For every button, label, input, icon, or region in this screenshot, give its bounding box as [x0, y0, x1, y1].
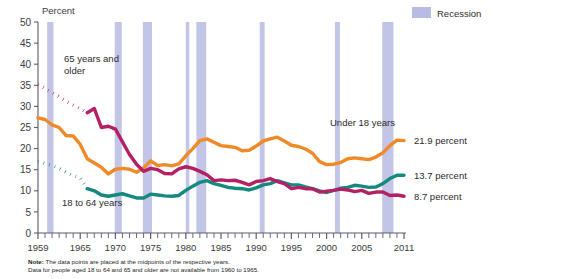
recession-band [143, 22, 152, 233]
y-tick-label: 0 [25, 228, 31, 239]
x-tick-label: 2005 [351, 242, 372, 253]
x-tick-label: 1995 [281, 242, 302, 253]
note-line-2: Data for people aged 18 to 64 and 65 and… [28, 266, 259, 273]
x-tick-label: 2011 [394, 242, 414, 253]
y-tick-label: 5 [25, 207, 31, 218]
x-tick-label: 1990 [246, 242, 267, 253]
end-value-adults: 13.7 percent [414, 170, 467, 181]
legend-label-recession: Recession [437, 8, 481, 19]
series-label-under18: Under 18 years [330, 117, 395, 128]
end-value-under18: 21.9 percent [414, 135, 467, 146]
x-tick-label: 1970 [105, 242, 126, 253]
legend-swatch-recession [412, 7, 431, 18]
recession-band [260, 22, 265, 233]
x-tick-label: 1980 [175, 242, 196, 253]
note-line-1: The data points are placed at the midpoi… [45, 258, 229, 265]
x-tick-label: 2000 [316, 242, 337, 253]
recession-band [47, 22, 53, 233]
y-tick-label: 15 [20, 164, 32, 175]
x-tick-label: 1959 [27, 242, 48, 253]
chart-svg: 05101520253035404550Percent1959196519701… [0, 0, 567, 279]
end-value-older: 8.7 percent [414, 191, 462, 202]
poverty-rate-chart: 05101520253035404550Percent1959196519701… [0, 0, 567, 279]
x-tick-label: 1965 [70, 242, 91, 253]
y-tick-label: 30 [20, 101, 32, 112]
y-tick-label: 10 [20, 185, 32, 196]
y-tick-label: 25 [20, 122, 32, 133]
y-axis-title: Percent [42, 5, 75, 16]
y-tick-label: 50 [20, 17, 32, 28]
series-label-adults: 18 to 64 years [62, 197, 122, 208]
series-label-older-line2: older [64, 65, 85, 76]
recession-band [196, 22, 206, 233]
note-label: Note: [28, 258, 44, 265]
recession-band [186, 22, 190, 233]
y-tick-label: 20 [20, 143, 32, 154]
series-label-older-line1: 65 years and [64, 53, 119, 64]
y-tick-label: 45 [20, 38, 32, 49]
y-tick-label: 40 [20, 59, 32, 70]
y-tick-label: 35 [20, 80, 32, 91]
x-tick-label: 1985 [210, 242, 231, 253]
chart-note: Note: The data points are placed at the … [28, 258, 448, 274]
x-tick-label: 1975 [140, 242, 161, 253]
